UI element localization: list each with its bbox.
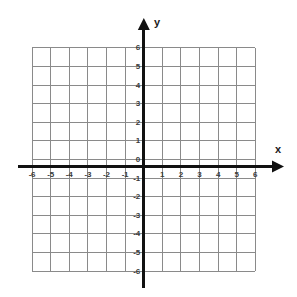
coordinate-grid-figure: -6 -5 -4 -3 -2 -1 1 2 3 4 5 6 6 5 4 3 2 …: [0, 0, 297, 297]
x-tick-label: -6: [24, 170, 40, 179]
y-tick-label: -1: [126, 174, 140, 183]
x-tick-label: 1: [154, 170, 170, 179]
y-tick-label: 3: [126, 99, 140, 108]
x-tick-label: 6: [247, 170, 263, 179]
x-tick-label: 5: [229, 170, 245, 179]
y-tick-label: 5: [126, 62, 140, 71]
coordinate-plane-svg: [0, 0, 297, 297]
y-tick-label: 4: [126, 81, 140, 90]
y-tick-label: -2: [126, 192, 140, 201]
y-axis-label: y: [154, 16, 160, 28]
x-tick-label: -3: [80, 170, 96, 179]
x-tick-label: -2: [98, 170, 114, 179]
x-axis-label: x: [275, 143, 281, 155]
arrow-up-icon: [138, 18, 150, 30]
arrow-right-icon: [272, 161, 284, 173]
y-tick-label: -6: [126, 267, 140, 276]
x-tick-label: 2: [173, 170, 189, 179]
y-tick-label: 1: [126, 136, 140, 145]
x-tick-label: -4: [61, 170, 77, 179]
x-tick-label: -5: [43, 170, 59, 179]
y-tick-label: -5: [126, 248, 140, 257]
y-tick-label: -4: [126, 229, 140, 238]
x-tick-label: 4: [210, 170, 226, 179]
y-tick-label: 6: [126, 43, 140, 52]
y-tick-origin-label: 0: [126, 155, 140, 164]
y-tick-label: -3: [126, 211, 140, 220]
y-tick-label: 2: [126, 118, 140, 127]
x-tick-label: 3: [191, 170, 207, 179]
